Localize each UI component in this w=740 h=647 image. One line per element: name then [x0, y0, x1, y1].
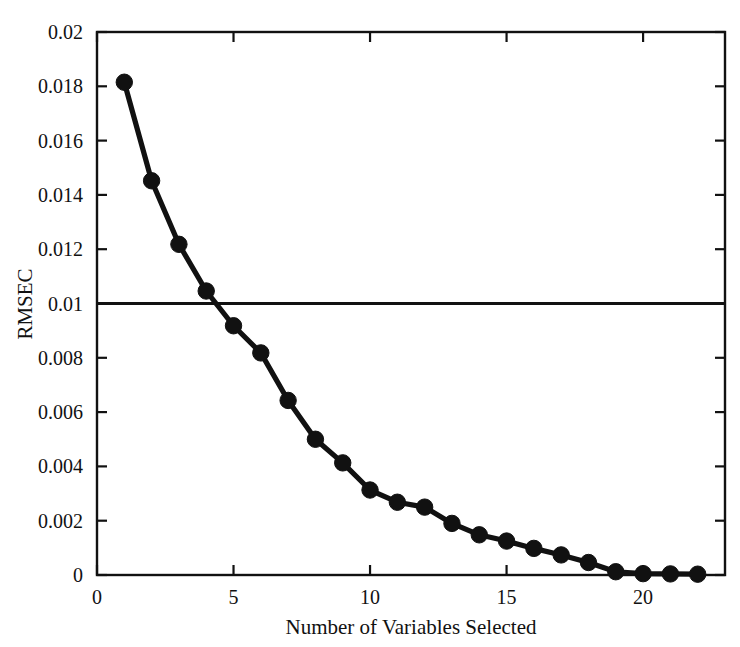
data-point-4 — [198, 283, 214, 299]
x-axis-ticks-bottom — [97, 565, 643, 575]
data-point-19 — [608, 564, 624, 580]
x-tick-label-0: 0 — [92, 586, 102, 608]
data-point-18 — [580, 554, 596, 570]
data-point-3 — [171, 236, 187, 252]
x-axis-tick-labels: 05101520 — [92, 586, 653, 608]
y-tick-label-7: 0.014 — [38, 184, 83, 206]
x-axis-title: Number of Variables Selected — [286, 615, 537, 639]
y-tick-label-2: 0.004 — [38, 455, 83, 477]
data-point-8 — [307, 431, 323, 447]
series-line-rmsec — [124, 82, 697, 574]
y-tick-label-6: 0.012 — [38, 238, 83, 260]
data-point-7 — [280, 392, 296, 408]
data-point-12 — [416, 499, 432, 515]
data-point-13 — [444, 515, 460, 531]
data-point-1 — [116, 74, 132, 90]
y-tick-label-4: 0.008 — [38, 347, 83, 369]
data-point-16 — [526, 540, 542, 556]
y-tick-label-0: 0 — [73, 564, 83, 586]
rmsec-line-chart: 00.0020.0040.0060.0080.010.0120.0140.016… — [0, 0, 740, 647]
x-axis-ticks-top — [97, 32, 643, 42]
data-point-10 — [362, 482, 378, 498]
x-tick-label-4: 20 — [633, 586, 653, 608]
y-tick-label-3: 0.006 — [38, 401, 83, 423]
chart-figure: 00.0020.0040.0060.0080.010.0120.0140.016… — [0, 0, 740, 647]
data-point-20 — [635, 565, 651, 581]
data-point-15 — [498, 533, 514, 549]
y-tick-label-5: 0.01 — [48, 293, 83, 315]
data-point-21 — [662, 566, 678, 582]
y-tick-label-1: 0.002 — [38, 510, 83, 532]
x-tick-label-3: 15 — [497, 586, 517, 608]
y-tick-label-8: 0.016 — [38, 130, 83, 152]
data-point-9 — [335, 455, 351, 471]
data-point-2 — [143, 173, 159, 189]
y-axis-tick-labels: 00.0020.0040.0060.0080.010.0120.0140.016… — [38, 21, 83, 586]
data-point-6 — [253, 345, 269, 361]
x-tick-label-2: 10 — [360, 586, 380, 608]
data-point-5 — [225, 318, 241, 334]
data-point-17 — [553, 547, 569, 563]
y-tick-label-10: 0.02 — [48, 21, 83, 43]
data-point-22 — [690, 566, 706, 582]
x-tick-label-1: 5 — [229, 586, 239, 608]
y-tick-label-9: 0.018 — [38, 75, 83, 97]
y-axis-title: RMSEC — [13, 268, 37, 339]
data-point-14 — [471, 527, 487, 543]
data-point-11 — [389, 494, 405, 510]
